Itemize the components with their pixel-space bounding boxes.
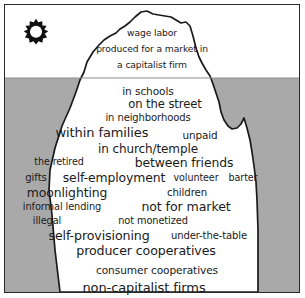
iceberg-diagram: wage laborproduced for a market ina capi… <box>0 0 305 298</box>
iceberg-label-below-water: moonlighting <box>27 187 108 199</box>
iceberg-label-below-water: informal lending <box>23 202 101 212</box>
iceberg-label-below-water: children <box>167 188 207 198</box>
iceberg-label-above-water: wage labor <box>127 28 177 37</box>
iceberg-label-below-water: within families <box>56 126 149 139</box>
iceberg-label-below-water: in schools <box>122 86 174 97</box>
iceberg-label-below-water: unpaid <box>182 130 217 140</box>
iceberg-label-below-water: barter <box>229 173 258 183</box>
iceberg-label-below-water: in church/temple <box>98 143 198 155</box>
iceberg-label-below-water: in neighborhoods <box>105 113 190 123</box>
iceberg-label-above-water: a capitalist firm <box>117 60 187 69</box>
iceberg-label-below-water: self-provisioning <box>48 230 149 243</box>
iceberg-label-below-water: on the street <box>128 99 201 111</box>
iceberg-label-below-water: non-capitalist firms <box>82 281 205 294</box>
iceberg-label-below-water: between friends <box>135 157 234 169</box>
iceberg-label-below-water: not monetized <box>118 216 188 226</box>
iceberg-label-below-water: self-employment <box>63 172 166 184</box>
sun-icon <box>22 18 50 46</box>
iceberg-label-below-water: illegal <box>33 216 61 226</box>
iceberg-label-below-water: under-the-table <box>171 231 247 241</box>
iceberg-label-below-water: gifts <box>25 173 47 183</box>
iceberg-label-below-water: the retired <box>34 157 83 167</box>
iceberg-label-below-water: consumer cooperatives <box>96 265 218 276</box>
iceberg-label-below-water: not for market <box>141 201 230 214</box>
iceberg-label-below-water: producer cooperatives <box>76 245 216 258</box>
iceberg-label-above-water: produced for a market in <box>96 44 208 53</box>
iceberg-label-below-water: volunteer <box>174 173 219 183</box>
